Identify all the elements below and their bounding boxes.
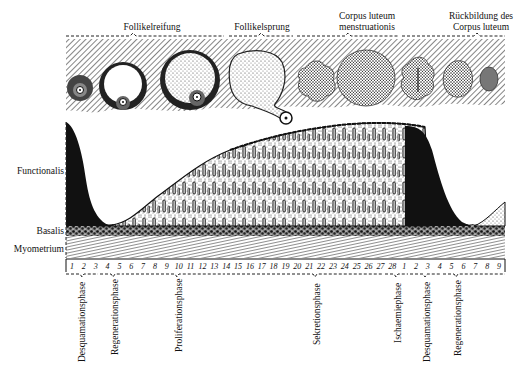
label-functionalis: Functionalis xyxy=(17,166,64,176)
day-number: 16 xyxy=(244,262,256,271)
day-number: 20 xyxy=(291,262,303,271)
day-number: 24 xyxy=(339,262,351,271)
day-number: 7 xyxy=(137,262,149,271)
endometrium xyxy=(66,122,505,258)
day-number: 6 xyxy=(125,262,137,271)
day-number: 15 xyxy=(232,262,244,271)
label-rueckbildung-line2: Corpus luteum xyxy=(436,22,519,32)
day-number: 10 xyxy=(173,262,185,271)
day-number: 9 xyxy=(493,262,505,271)
phase-brackets-top xyxy=(66,33,505,36)
label-rueckbildung-line1: Rückbildung des xyxy=(436,11,519,21)
day-number: 3 xyxy=(90,262,102,271)
day-number: 5 xyxy=(113,262,125,271)
myometrium-layer xyxy=(66,234,505,258)
day-number: 4 xyxy=(434,262,446,271)
day-number: 14 xyxy=(220,262,232,271)
day-number: 17 xyxy=(256,262,268,271)
day-number: 1 xyxy=(66,262,78,271)
follicle-mature xyxy=(160,50,220,110)
day-number: 28 xyxy=(386,262,398,271)
day-number: 8 xyxy=(149,262,161,271)
menstruation-left xyxy=(66,122,110,226)
label-follikelsprung: Follikelsprung xyxy=(222,22,302,32)
label-follikelreifung: Follikelreifung xyxy=(107,22,197,32)
corpus-albicans xyxy=(480,67,498,91)
day-number: 21 xyxy=(303,262,315,271)
corpus-luteum-regressing-2 xyxy=(443,61,472,97)
day-number: 13 xyxy=(208,262,220,271)
ovary-strip xyxy=(66,33,505,124)
day-number: 8 xyxy=(481,262,493,271)
follicle-small xyxy=(67,75,93,101)
label-corpus-luteum-line2: menstruationis xyxy=(322,22,412,32)
phase-ischaemie: Ischaemiephase xyxy=(393,283,403,343)
day-number: 7 xyxy=(469,262,481,271)
phase-sekretion: Sekretionsphase xyxy=(312,283,322,345)
label-basalis: Basalis xyxy=(37,226,64,236)
day-number: 5 xyxy=(446,262,458,271)
label-corpus-luteum-line1: Corpus luteum xyxy=(322,11,412,21)
day-number: 3 xyxy=(422,262,434,271)
day-number: 4 xyxy=(102,262,114,271)
corpus-luteum-full xyxy=(337,50,395,106)
phase-regeneration-2: Regenerationsphase xyxy=(453,280,463,356)
day-number: 11 xyxy=(185,262,197,271)
day-number: 19 xyxy=(280,262,292,271)
menstruation-right xyxy=(405,126,474,226)
day-number: 18 xyxy=(268,262,280,271)
day-number: 26 xyxy=(363,262,375,271)
phase-desquamation-1: Desquamationsphase xyxy=(77,282,87,362)
day-number: 23 xyxy=(327,262,339,271)
phase-proliferation: Proliferationsphase xyxy=(174,279,184,352)
day-number: 2 xyxy=(410,262,422,271)
day-number: 1 xyxy=(398,262,410,271)
day-number: 25 xyxy=(351,262,363,271)
layer-labels: Functionalis Basalis Myometrium xyxy=(0,0,64,377)
phase-desquamation-2: Desquamationsphase xyxy=(422,282,432,362)
follicle-growing xyxy=(99,62,147,110)
day-number: 6 xyxy=(458,262,470,271)
day-number: 22 xyxy=(315,262,327,271)
day-number: 2 xyxy=(78,262,90,271)
day-number: 27 xyxy=(374,262,386,271)
label-myometrium: Myometrium xyxy=(14,244,64,254)
day-number: 12 xyxy=(197,262,209,271)
phase-regeneration-1: Regenerationsphase xyxy=(110,279,120,355)
day-number: 9 xyxy=(161,262,173,271)
